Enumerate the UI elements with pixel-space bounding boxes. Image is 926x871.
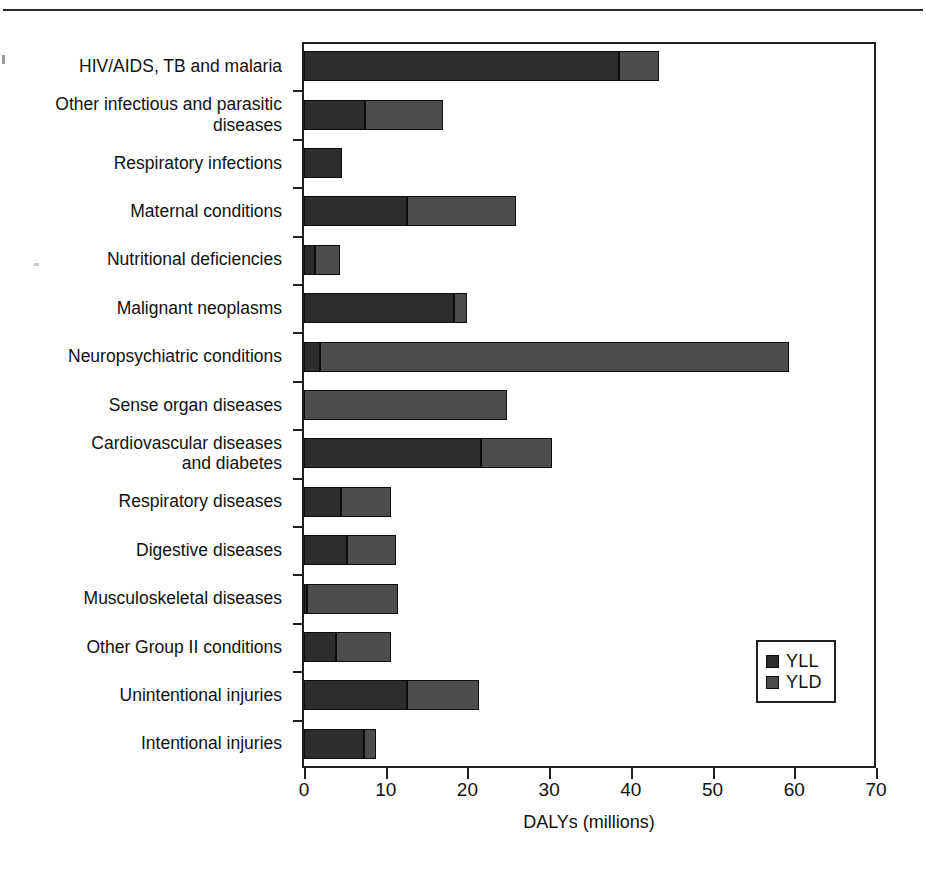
bar-segment-yld xyxy=(481,438,551,468)
value-tick xyxy=(304,768,306,779)
bar xyxy=(304,100,443,130)
category-label: Maternal conditions xyxy=(0,187,292,235)
bar-segment-yll xyxy=(304,293,454,323)
x-axis-title: DALYs (millions) xyxy=(302,812,876,833)
category-label: Unintentional injuries xyxy=(0,671,292,719)
bar-segment-yll xyxy=(304,196,407,226)
category-tick xyxy=(293,284,303,286)
value-tick xyxy=(713,768,715,779)
bar xyxy=(304,293,467,323)
bar xyxy=(304,680,479,710)
legend-item-yll: YLL xyxy=(766,652,822,670)
value-tick xyxy=(386,768,388,779)
bar-segment-yld xyxy=(341,487,392,517)
value-tick-label: 20 xyxy=(437,779,497,801)
category-label: Malignant neoplasms xyxy=(0,284,292,332)
category-label: Digestive diseases xyxy=(0,526,292,574)
legend-swatch-yld xyxy=(766,676,779,689)
bar-segment-yll xyxy=(304,535,347,565)
bar xyxy=(304,245,340,275)
bar-segment-yld xyxy=(619,51,660,81)
category-tick xyxy=(293,139,303,141)
bar-segment-yld xyxy=(454,293,467,323)
value-tick-label: 30 xyxy=(519,779,579,801)
category-label: Musculoskeletal diseases xyxy=(0,574,292,622)
value-tick xyxy=(549,768,551,779)
bar xyxy=(304,342,789,372)
bar xyxy=(304,535,396,565)
bar-segment-yld xyxy=(336,632,391,662)
bar xyxy=(304,438,552,468)
value-tick-label: 50 xyxy=(683,779,743,801)
category-axis-labels: HIV/AIDS, TB and malariaOther infectious… xyxy=(0,42,292,768)
legend-label-yld: YLD xyxy=(786,673,822,691)
category-label: Sense organ diseases xyxy=(0,381,292,429)
bar-segment-yll xyxy=(304,438,481,468)
value-tick xyxy=(794,768,796,779)
bar xyxy=(304,196,516,226)
bar-segment-yll xyxy=(304,632,336,662)
category-tick xyxy=(293,236,303,238)
category-label: Other infectious and parasitic diseases xyxy=(0,90,292,138)
category-label: Intentional injuries xyxy=(0,720,292,768)
value-tick-label: 70 xyxy=(846,779,906,801)
category-label: Other Group II conditions xyxy=(0,623,292,671)
bar-segment-yll xyxy=(304,680,407,710)
category-tick xyxy=(293,574,303,576)
category-tick xyxy=(293,623,303,625)
bar xyxy=(304,148,342,178)
bar-segment-yld xyxy=(407,680,479,710)
bar-segment-yld xyxy=(365,100,443,130)
value-tick-label: 0 xyxy=(274,779,334,801)
bar-segment-yll xyxy=(304,245,315,275)
category-label: Cardiovascular diseases and diabetes xyxy=(0,429,292,477)
category-tick xyxy=(293,187,303,189)
bar-segment-yll xyxy=(304,487,341,517)
bar-segment-yll xyxy=(304,51,619,81)
bar-segment-yld xyxy=(364,729,376,759)
category-tick xyxy=(293,429,303,431)
bar-segment-yld xyxy=(320,342,788,372)
bar xyxy=(304,390,507,420)
category-label: HIV/AIDS, TB and malaria xyxy=(0,42,292,90)
legend-label-yll: YLL xyxy=(786,652,819,670)
bar-segment-yll xyxy=(304,729,364,759)
category-tick xyxy=(293,478,303,480)
bar xyxy=(304,729,376,759)
chart-legend: YLL YLD xyxy=(756,640,836,703)
dalys-stacked-bar-chart: HIV/AIDS, TB and malariaOther infectious… xyxy=(0,0,926,871)
value-tick xyxy=(467,768,469,779)
category-tick xyxy=(293,332,303,334)
category-label: Respiratory infections xyxy=(0,139,292,187)
bar-segment-yld xyxy=(315,245,340,275)
legend-swatch-yll xyxy=(766,655,779,668)
value-tick xyxy=(631,768,633,779)
bar xyxy=(304,584,398,614)
value-tick-label: 10 xyxy=(356,779,416,801)
category-tick xyxy=(293,381,303,383)
figure-page: HIV/AIDS, TB and malariaOther infectious… xyxy=(0,0,926,871)
category-label: Respiratory diseases xyxy=(0,478,292,526)
bar-segment-yll xyxy=(304,342,320,372)
value-tick-label: 40 xyxy=(601,779,661,801)
bar-segment-yld xyxy=(304,390,507,420)
value-tick xyxy=(876,768,878,779)
bar xyxy=(304,632,391,662)
category-label: Neuropsychiatric conditions xyxy=(0,332,292,380)
bar-segment-yld xyxy=(407,196,516,226)
legend-item-yld: YLD xyxy=(766,673,822,691)
category-tick xyxy=(293,720,303,722)
category-tick xyxy=(293,526,303,528)
bar-segment-yll xyxy=(304,100,365,130)
bar-segment-yll xyxy=(304,148,342,178)
category-label: Nutritional deficiencies xyxy=(0,236,292,284)
bar xyxy=(304,51,659,81)
bar-segment-yld xyxy=(307,584,398,614)
value-tick-label: 60 xyxy=(764,779,824,801)
category-tick xyxy=(293,671,303,673)
bar xyxy=(304,487,391,517)
category-tick xyxy=(293,90,303,92)
bar-segment-yld xyxy=(347,535,395,565)
